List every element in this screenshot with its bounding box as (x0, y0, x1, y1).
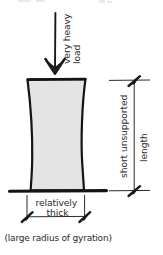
thickness-label-line2: thick (47, 207, 70, 218)
figure-canvas: very heavy load shor (0, 0, 163, 255)
clipped-top-text-remnant (18, 0, 112, 3)
base-line (10, 191, 107, 192)
length-label: short unsupported length (118, 95, 150, 178)
radius-of-gyration-note: (large radius of gyration) (5, 233, 112, 243)
column-buckling-figure: very heavy load shor (0, 0, 163, 255)
column (28, 79, 86, 190)
load-label: very heavy load (61, 13, 82, 64)
column-top-edge (28, 79, 86, 80)
load-label-line2: load (71, 45, 82, 64)
length-label-line1: short unsupported (118, 95, 129, 178)
thickness-label: relatively thick (36, 197, 78, 218)
length-label-line2: length (138, 133, 149, 162)
